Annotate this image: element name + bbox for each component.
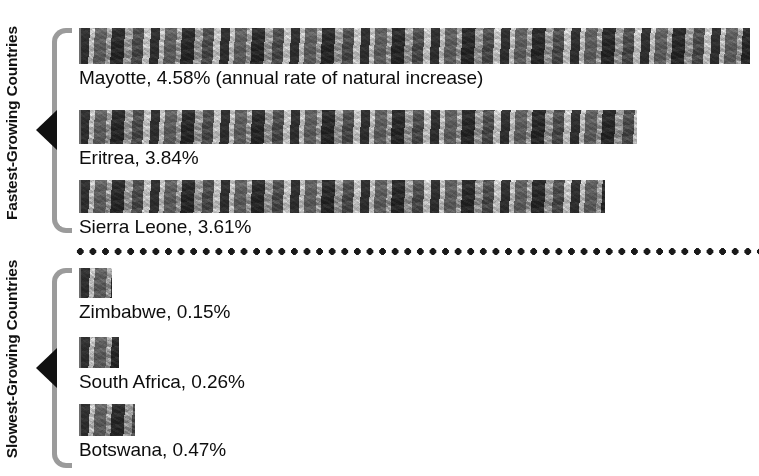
- bar-row-south-africa: South Africa, 0.26%: [79, 337, 245, 392]
- bar-label-sierra-leone: Sierra Leone, 3.61%: [79, 217, 605, 237]
- bar-zimbabwe: [79, 268, 112, 298]
- group-axis-label-slowest: Slowest-Growing Countries: [3, 244, 21, 474]
- bar-mayotte: [79, 28, 750, 64]
- bar-label-eritrea: Eritrea, 3.84%: [79, 148, 637, 168]
- growth-rate-chart: Fastest-Growing Countries Mayotte, 4.58%…: [0, 0, 759, 476]
- bar-south-africa: [79, 337, 119, 368]
- bar-row-mayotte: Mayotte, 4.58% (annual rate of natural i…: [79, 28, 750, 88]
- bar-sierra-leone: [79, 180, 605, 213]
- group-axis-label-fastest: Fastest-Growing Countries: [3, 8, 21, 238]
- bar-label-south-africa: South Africa, 0.26%: [79, 372, 245, 392]
- group-divider-dotted-line: [74, 248, 759, 255]
- bar-label-botswana: Botswana, 0.47%: [79, 440, 226, 460]
- bar-label-mayotte: Mayotte, 4.58% (annual rate of natural i…: [79, 68, 750, 88]
- bar-botswana: [79, 404, 135, 436]
- bar-label-zimbabwe: Zimbabwe, 0.15%: [79, 302, 230, 322]
- group-pointer-arrow-fastest: [36, 110, 57, 150]
- bar-row-eritrea: Eritrea, 3.84%: [79, 110, 637, 168]
- bar-row-zimbabwe: Zimbabwe, 0.15%: [79, 268, 230, 322]
- bar-row-botswana: Botswana, 0.47%: [79, 404, 226, 460]
- bar-eritrea: [79, 110, 637, 144]
- group-pointer-arrow-slowest: [36, 348, 57, 388]
- bar-row-sierra-leone: Sierra Leone, 3.61%: [79, 180, 605, 237]
